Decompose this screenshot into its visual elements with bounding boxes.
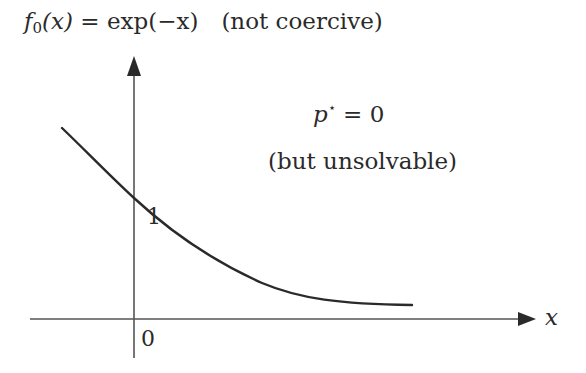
figure-title: f0(x) = exp(−x) (not coercive) xyxy=(24,10,383,36)
title-gap xyxy=(198,8,221,34)
x-tick-label: 0 xyxy=(141,328,155,350)
x-axis-arrow-icon xyxy=(518,312,536,326)
optimal-value-label: p⋆ = 0 xyxy=(313,101,384,126)
title-note: (not coercive) xyxy=(221,8,382,34)
star-superscript: ⋆ xyxy=(328,100,336,115)
title-func: f xyxy=(24,8,33,34)
y-axis-arrow-icon xyxy=(127,56,141,76)
p-symbol: p xyxy=(313,101,328,127)
y-tick-label: 1 xyxy=(147,206,161,228)
unsolvable-note: (but unsolvable) xyxy=(268,150,457,173)
x-axis-label: x xyxy=(545,306,558,329)
x-axis xyxy=(30,312,536,326)
y-axis xyxy=(127,56,141,358)
optimal-value: = 0 xyxy=(336,101,385,127)
title-arg: (x) xyxy=(42,8,73,34)
plot-canvas xyxy=(0,0,586,373)
title-subscript: 0 xyxy=(33,19,43,37)
title-equation: = exp(−x) xyxy=(73,8,198,34)
